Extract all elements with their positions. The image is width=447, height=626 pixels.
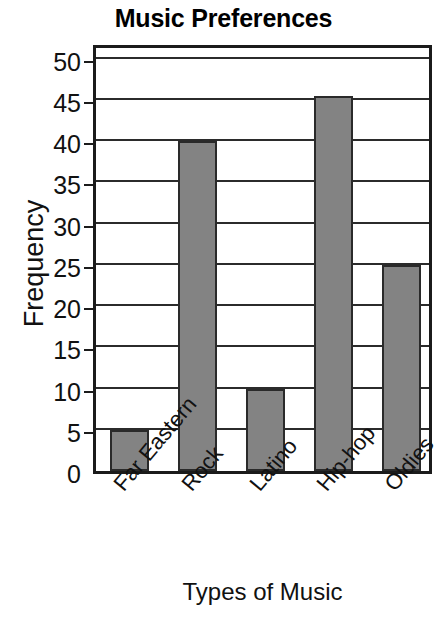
y-axis-tick-label: 50 [0,49,81,74]
y-axis-tick-mark [84,61,93,63]
y-axis-tick-label: 5 [0,420,81,445]
y-axis-tick-mark [84,184,93,186]
y-axis-tick-label: 0 [0,462,81,487]
y-axis-tick-label: 35 [0,173,81,198]
bar-series [96,48,429,471]
y-axis-tick-mark [84,391,93,393]
y-axis-tick-label: 15 [0,338,81,363]
chart-title: Music Preferences [0,4,447,33]
y-axis-tick-label: 45 [0,90,81,115]
y-axis-tick-mark [84,226,93,228]
y-axis-tick-label: 40 [0,132,81,157]
plot-area [93,45,432,474]
y-axis-tick-mark [84,349,93,351]
y-axis-tick-label: 10 [0,379,81,404]
y-axis-tick-mark [84,432,93,434]
bar [314,96,353,471]
y-axis-tick-label: 25 [0,255,81,280]
y-axis-tick-label: 30 [0,214,81,239]
y-axis-tick-mark [84,308,93,310]
y-axis-tick-mark [84,143,93,145]
y-axis-tick-mark [84,267,93,269]
chart-figure: Music Preferences Frequency Far EasternR… [0,0,447,626]
y-axis-tick-label: 20 [0,297,81,322]
x-axis-title: Types of Music [93,578,432,606]
y-axis-tick-mark [84,102,93,104]
